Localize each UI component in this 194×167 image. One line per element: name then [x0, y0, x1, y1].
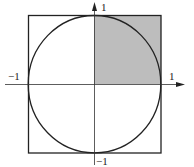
x-axis-arrow-icon: [176, 82, 185, 87]
label-x-left: −1: [8, 70, 20, 82]
label-y-bottom: −1: [96, 155, 108, 167]
y-axis-arrow-icon: [92, 2, 97, 11]
label-x-right: 1: [169, 70, 175, 82]
shaded-quadrant: [94, 15, 161, 84]
unit-circle-diagram: 1 −1 −1 1: [0, 0, 194, 167]
label-y-top: 1: [101, 1, 107, 13]
